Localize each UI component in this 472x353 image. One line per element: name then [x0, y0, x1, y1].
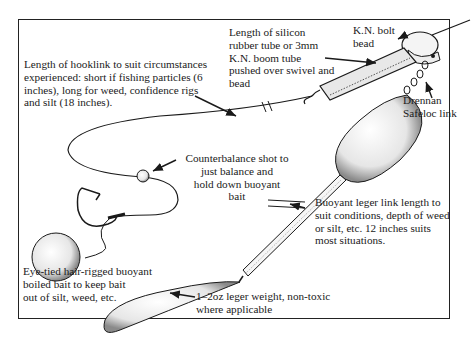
label-silicon-tube: Length of silicon rubber tube or 3mm K.N…: [229, 26, 334, 90]
text-line: boiled bait to keep bait: [23, 278, 152, 291]
text-line: Length of hooklink to suit circumstances: [24, 58, 207, 71]
label-drennan-link: Drennan Safeloc link: [403, 94, 457, 120]
text-line: K.N. boom tube: [229, 52, 334, 65]
text-line: Counterbalance shot to: [176, 152, 298, 165]
text-line: K.N. bolt: [353, 24, 395, 37]
text-line: rubber tube or 3mm: [229, 39, 334, 52]
hook-icon: [78, 188, 117, 226]
text-line: bead: [229, 77, 334, 90]
text-line: experienced: short if fishing particles …: [24, 71, 207, 84]
arrow-bolt-bead: [398, 36, 404, 39]
text-line: Safeloc link: [403, 107, 457, 120]
text-line: just balance and: [176, 165, 298, 178]
label-leger-link: Buoyant leger link length to suit condit…: [315, 196, 450, 247]
main-line: [432, 20, 470, 35]
label-hooklink: Length of hooklink to suit circumstances…: [24, 58, 207, 109]
text-line: Length of silicon: [229, 26, 334, 39]
label-leger-weight: 1–2oz leger weight, non-toxic where appl…: [196, 290, 330, 316]
text-line: hold down buoyant: [176, 178, 298, 191]
text-line: most situations.: [315, 234, 450, 247]
silicon-tube-icon: [320, 48, 416, 100]
cut-mark: [262, 101, 272, 112]
text-line: out of silt, weed, etc.: [23, 291, 152, 304]
text-line: bait: [176, 190, 298, 203]
text-line: 1–2oz leger weight, non-toxic: [196, 290, 330, 303]
text-line: Drennan: [403, 94, 457, 107]
text-line: and silt (18 inches).: [24, 96, 207, 109]
text-line: suit conditions, depth of weed: [315, 209, 450, 222]
text-line: or silt, etc. 12 inches suits: [315, 222, 450, 235]
text-line: Eye-tied hair-rigged buoyant: [23, 265, 152, 278]
label-boilie: Eye-tied hair-rigged buoyant boiled bait…: [23, 265, 152, 303]
label-counterbalance-shot: Counterbalance shot to just balance and …: [176, 152, 298, 203]
counterbalance-shot-icon: [137, 170, 149, 182]
arrow-counterbalance: [153, 160, 176, 171]
text-line: pushed over swivel and: [229, 64, 334, 77]
label-bolt-bead: K.N. bolt bead: [353, 24, 395, 50]
text-line: bead: [353, 37, 395, 50]
text-line: where applicable: [196, 303, 330, 316]
text-line: Buoyant leger link length to: [315, 196, 450, 209]
text-line: inches), long for weed, confidence rigs: [24, 84, 207, 97]
